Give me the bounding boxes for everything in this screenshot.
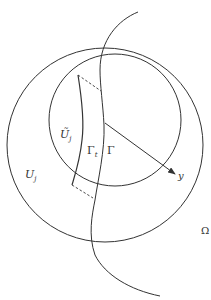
label-u-j: Uj (25, 168, 37, 183)
dashed-connector-top (78, 75, 101, 91)
label-gamma-t: Γt (87, 144, 98, 159)
outer-circle-u-j (7, 48, 203, 242)
label-u-tilde-j: Ũj (60, 127, 72, 143)
label-y: y (177, 170, 184, 181)
arrow-y (105, 123, 175, 174)
curve-gamma-t (72, 75, 83, 185)
inner-circle (49, 54, 181, 186)
label-omega: Ω (201, 225, 209, 236)
label-gamma: Γ (107, 144, 115, 157)
dashed-connector-bottom (72, 185, 93, 198)
diagram-canvas: Ũj Γt Γ Uj y Ω (0, 0, 211, 300)
